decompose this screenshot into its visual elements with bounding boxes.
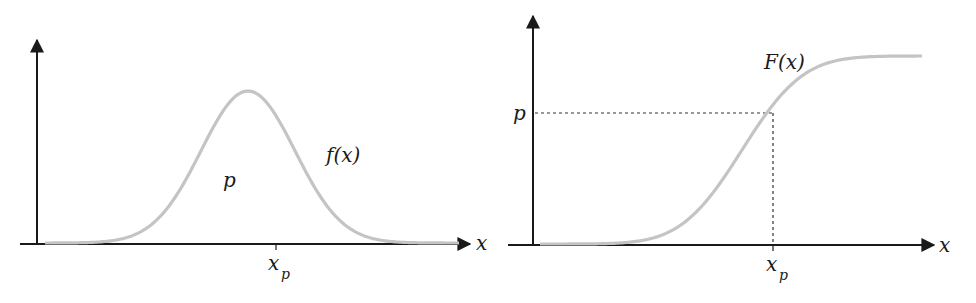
pdf-panel: f(x) p x x p bbox=[20, 40, 487, 282]
cdf-curve-label: F(x) bbox=[763, 50, 805, 74]
cdf-xp-subscript: p bbox=[779, 267, 788, 283]
pdf-curve bbox=[45, 91, 459, 243]
cdf-x-axis-label: x bbox=[939, 233, 950, 257]
figure-canvas: f(x) p x x p F(x) p x x p bbox=[0, 0, 976, 303]
pdf-xp-label: x bbox=[268, 251, 279, 275]
cdf-xp-label: x bbox=[766, 252, 777, 276]
pdf-x-axis-label: x bbox=[476, 231, 487, 255]
cdf-panel: F(x) p x x p bbox=[508, 16, 950, 283]
cdf-p-tick-label: p bbox=[513, 101, 526, 125]
pdf-xp-subscript: p bbox=[281, 266, 290, 282]
pdf-curve-label: f(x) bbox=[324, 143, 360, 167]
pdf-area-label: p bbox=[223, 168, 236, 192]
cdf-curve bbox=[540, 56, 922, 244]
